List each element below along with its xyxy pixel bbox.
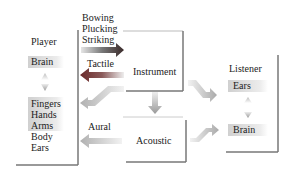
aural-label: Aural <box>88 121 111 132</box>
player-effector-arms: Arms <box>31 120 53 131</box>
excitation-plucking: Plucking <box>82 23 118 34</box>
listener-title: Listener <box>229 63 262 74</box>
listener-ears-label: Ears <box>233 80 251 91</box>
listener-brain-label: Brain <box>233 124 255 135</box>
excitation-striking: Striking <box>82 34 114 45</box>
excitation-bowing: Bowing <box>82 12 114 23</box>
player-effector-hands: Hands <box>31 109 57 120</box>
tactile-label: Tactile <box>87 58 114 69</box>
player-effector-ears: Ears <box>31 142 49 153</box>
player-brain-label: Brain <box>31 56 53 67</box>
player-effector-fingers: Fingers <box>31 98 61 109</box>
instrument-label: Instrument <box>133 66 176 77</box>
player-title: Player <box>31 36 57 47</box>
player-effector-body: Body <box>31 131 53 142</box>
acoustic-label: Acoustic <box>136 135 172 146</box>
